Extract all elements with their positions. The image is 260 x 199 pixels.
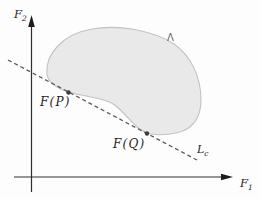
region-label-lambda: Λ <box>167 32 174 43</box>
objective-space-diagram: F2 F1 Λ F(P) F(Q) Lc <box>0 0 260 199</box>
x-axis-label-subscript: 1 <box>248 183 253 192</box>
y-axis-label-subscript: 2 <box>21 14 27 23</box>
supporting-line-label-base: L <box>196 143 204 156</box>
point-f-of-p-label: F(P) <box>39 95 71 109</box>
point-f-of-q <box>145 131 149 135</box>
diagram-canvas: F2 F1 Λ F(P) F(Q) Lc <box>0 0 260 199</box>
point-f-of-q-label: F(Q) <box>112 137 145 151</box>
